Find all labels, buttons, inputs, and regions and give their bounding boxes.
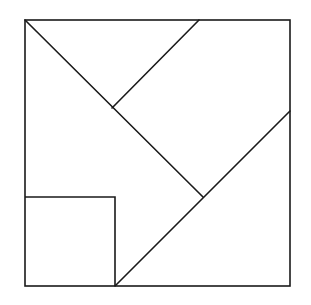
- small-square-edges: [25, 197, 115, 286]
- tangram-diagram: [0, 0, 311, 305]
- right-diagonal: [115, 111, 290, 286]
- main-diagonal: [25, 20, 203, 197]
- top-triangle-edge: [112, 20, 199, 108]
